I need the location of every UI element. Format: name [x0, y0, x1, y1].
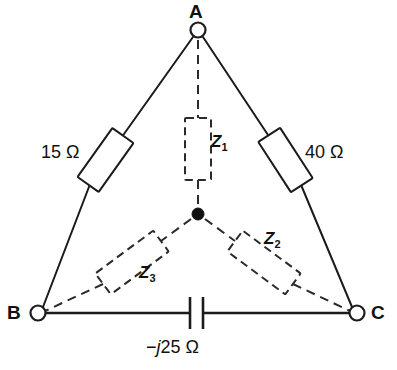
- terminal-c-circle[interactable]: [350, 306, 365, 321]
- impedance-z1-subscript: 1: [221, 141, 227, 153]
- wire-center-to-z2: [205, 219, 235, 241]
- impedance-z2-subscript: 2: [274, 238, 280, 250]
- wire-z3-to-b: [45, 284, 103, 311]
- capacitor-label-magnitude: 25 Ω: [161, 337, 199, 357]
- impedance-z1-label: Z1: [211, 133, 228, 153]
- wye-branch-z3: [45, 219, 191, 311]
- wire-r40-to-c: [299, 180, 352, 307]
- circuit-canvas: [0, 0, 397, 370]
- wire-r15-to-b: [43, 179, 92, 307]
- terminal-label-a: A: [189, 2, 203, 21]
- delta-branch-ab: [43, 37, 193, 307]
- delta-branch-bc: [46, 297, 349, 329]
- capacitor-label-sign: −: [146, 337, 157, 357]
- impedance-z3-subscript: 3: [149, 272, 155, 284]
- circuit-diagram-figure: A B C 15 Ω 40 Ω −j25 Ω Z1 Z2 Z3: [0, 0, 397, 370]
- resistor-15-ohm-label: 15 Ω: [41, 143, 79, 161]
- capacitor-minus-j25-label: −j25 Ω: [146, 338, 199, 356]
- impedance-z2-label: Z2: [264, 230, 281, 250]
- terminal-label-c: C: [371, 303, 385, 322]
- terminal-a-circle[interactable]: [191, 23, 206, 38]
- wire-a-to-r15: [119, 37, 193, 141]
- impedance-z3-base: Z: [139, 263, 149, 282]
- wire-center-to-z3: [161, 219, 191, 241]
- resistor-40-ohm-label: 40 Ω: [305, 143, 343, 161]
- delta-branch-ac: [203, 37, 352, 307]
- impedance-z1-base: Z: [211, 132, 221, 151]
- impedance-z1-box: [185, 118, 211, 180]
- terminal-b-circle[interactable]: [31, 306, 46, 321]
- impedance-z3-box: [95, 231, 168, 295]
- capacitor-minus-j25: [190, 297, 203, 329]
- resistor-15-ohm: [77, 128, 133, 192]
- impedance-z3-label: Z3: [139, 264, 156, 284]
- wire-a-to-r40: [203, 37, 272, 141]
- wire-z2-to-c: [293, 284, 350, 311]
- terminal-label-b: B: [7, 303, 21, 322]
- wye-branch-z1: [185, 40, 211, 209]
- center-node-dot: [192, 208, 204, 220]
- impedance-z2-base: Z: [264, 229, 274, 248]
